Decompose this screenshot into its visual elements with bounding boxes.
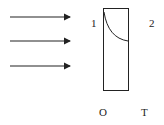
slab-rectangle: [104, 9, 129, 91]
label-region-1: 1: [91, 17, 97, 29]
diagram-canvas: 1 2 O T: [0, 0, 164, 125]
label-end-t: T: [141, 106, 148, 118]
label-origin-o: O: [99, 106, 107, 118]
label-region-2: 2: [149, 17, 155, 29]
boundary-curve: [104, 12, 128, 41]
